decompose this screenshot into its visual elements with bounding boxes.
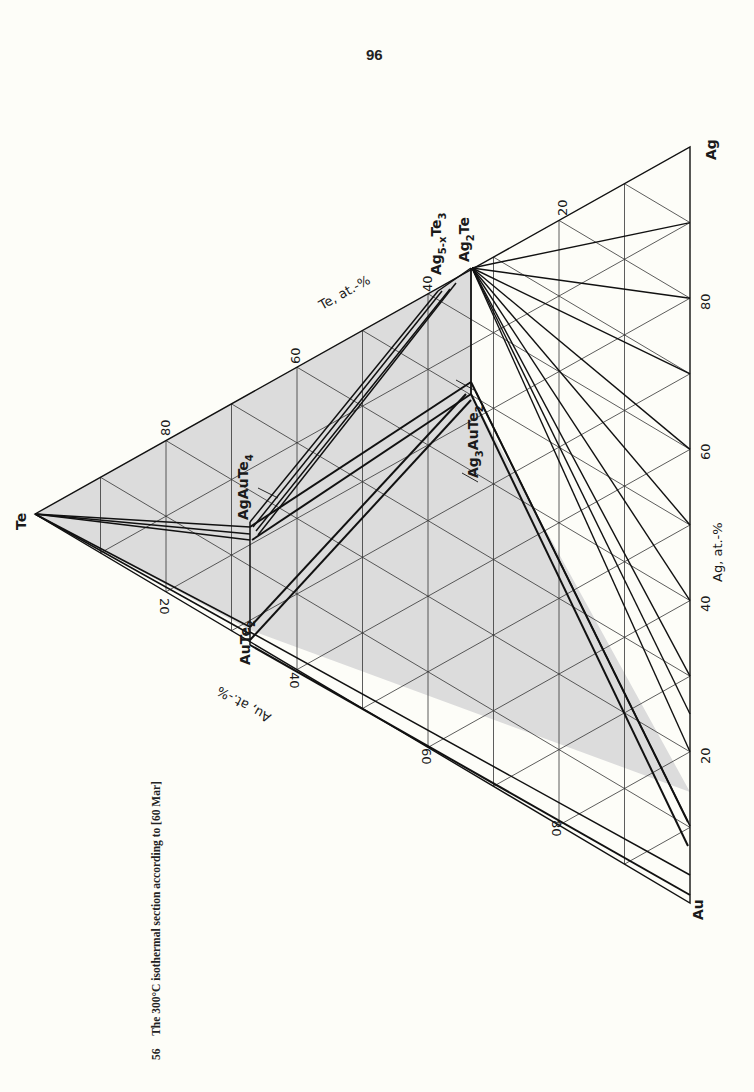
au-tick-60: 60 [419, 748, 434, 765]
au-tick-20: 20 [157, 598, 172, 615]
ag-tick-60: 60 [698, 443, 713, 460]
au-tick-80: 80 [549, 820, 564, 837]
au-tick-40: 40 [287, 672, 302, 689]
grid-line [625, 184, 691, 223]
phase-label-ag5te3: Ag5-xTe3 [428, 212, 448, 275]
ag-axis-title: Ag, at.-% [710, 522, 725, 582]
grid-line [472, 223, 690, 268]
vertex-ag-label: Ag [703, 139, 719, 160]
ag-tick-80: 80 [698, 293, 713, 310]
te-tick-80: 80 [158, 419, 173, 436]
vertex-au-label: Au [690, 899, 706, 920]
ag-tick-40: 40 [698, 595, 713, 612]
grid-line [625, 827, 691, 864]
ternary-diagram: 80 60 40 20 80 60 40 20 20 40 60 80 Te, … [0, 0, 754, 1092]
te-tick-60: 60 [288, 347, 303, 364]
vertex-te-label: Te [13, 513, 29, 530]
phase-label-aute2: AuTe2 [237, 620, 257, 665]
ag-tick-20: 20 [698, 747, 713, 764]
te-tick-40: 40 [420, 275, 435, 292]
au-axis-title: Au, at.-% [214, 683, 273, 725]
phase-label-ag2te: Ag2Te [456, 217, 476, 262]
te-tick-20: 20 [555, 199, 570, 216]
te-axis-title: Te, at.-% [315, 272, 372, 313]
